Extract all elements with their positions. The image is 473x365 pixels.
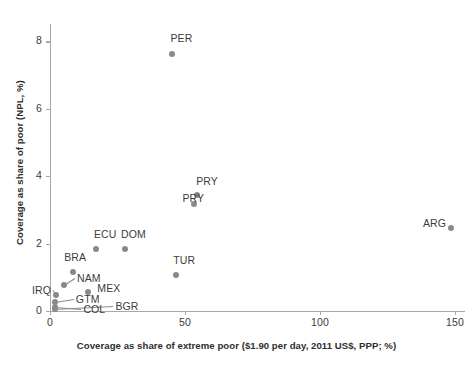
y-tick-label: 8: [18, 34, 42, 46]
y-axis-line: [50, 24, 51, 311]
scatter-chart: 02468 050100150 PERPRYPRYARGECUDOMTURBRA…: [0, 0, 473, 365]
data-point-label: COL: [83, 303, 105, 315]
data-point-marker: [70, 269, 76, 275]
data-point-marker: [122, 246, 128, 252]
data-point-marker: [169, 51, 175, 57]
y-tick-label: 0: [18, 304, 42, 316]
data-point-marker: [53, 292, 59, 298]
data-point-marker: [61, 282, 67, 288]
x-tick-label: 150: [440, 316, 470, 328]
data-point-label: PRY: [196, 175, 218, 187]
data-point-label: ARG: [423, 217, 446, 229]
x-tick-mark: [50, 311, 51, 315]
x-tick-label: 50: [170, 316, 200, 328]
data-point-marker: [93, 246, 99, 252]
x-tick-mark: [320, 311, 321, 315]
data-point-label: IRQ: [32, 284, 51, 296]
x-tick-mark: [185, 311, 186, 315]
data-point-label: TUR: [173, 254, 195, 266]
y-tick-mark: [46, 176, 50, 177]
data-point-label: ECU: [94, 228, 116, 240]
data-point-marker: [448, 225, 454, 231]
y-tick-mark: [46, 41, 50, 42]
data-point-label: PER: [171, 32, 193, 44]
data-point-label: BRA: [64, 251, 86, 263]
x-axis-line: [50, 311, 465, 312]
data-point-label: BGR: [115, 300, 138, 312]
data-point-marker: [173, 272, 179, 278]
y-tick-mark: [46, 244, 50, 245]
data-point-label: MEX: [97, 282, 120, 294]
x-tick-mark: [455, 311, 456, 315]
data-point-label: PRY: [182, 192, 204, 204]
y-tick-mark: [46, 109, 50, 110]
x-axis-title: Coverage as share of extreme poor ($1.90…: [0, 340, 473, 351]
x-tick-label: 0: [35, 316, 65, 328]
x-tick-label: 100: [305, 316, 335, 328]
y-axis-title: Coverage as share of poor (NPL, %): [14, 80, 25, 245]
data-point-label: DOM: [121, 228, 146, 240]
